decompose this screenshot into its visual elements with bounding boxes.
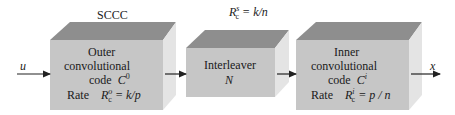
- inner-line1: Inner: [334, 45, 359, 59]
- rate-expression: = k/n: [242, 5, 268, 19]
- outer-line3: code C0: [89, 73, 130, 87]
- interleaver-line2: N: [225, 73, 233, 87]
- outer-line2: convolutional: [64, 59, 130, 73]
- outer-line1: Outer: [88, 45, 115, 59]
- interleaver-rate-label: Rsc = k/n: [229, 5, 268, 19]
- inner-line3: code Ci: [328, 73, 367, 87]
- interleaver-line1: Interleaver: [204, 58, 256, 72]
- output-label: x: [430, 59, 435, 73]
- input-label: u: [20, 59, 26, 73]
- inner-rate: Rate Ric = p / n: [311, 88, 391, 102]
- inner-block-top: [296, 22, 422, 40]
- diagram-title: SCCC: [97, 8, 128, 22]
- outer-rate: Rate Roc = k/p: [67, 88, 141, 102]
- inner-line2: convolutional: [311, 59, 377, 73]
- interleaver-block-top: [186, 30, 289, 48]
- outer-block-top: [50, 22, 176, 40]
